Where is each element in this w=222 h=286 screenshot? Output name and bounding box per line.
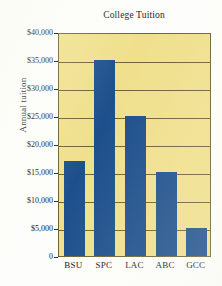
y-axis-tick: [54, 173, 58, 174]
gridline: [59, 62, 210, 63]
bar-chart: College Tuition Annual tuition $40,000$3…: [0, 0, 222, 286]
y-axis-tick-label: 0: [3, 252, 53, 261]
y-axis-tick-label: $5,000: [3, 224, 53, 233]
y-axis-tick: [54, 61, 58, 62]
y-axis-tick-label: $35,000: [3, 56, 53, 65]
bar: [64, 161, 85, 256]
chart-title: College Tuition: [56, 10, 212, 20]
y-axis-tick-labels: $40,000$35,000$30,000$25,000$20,000$15,0…: [0, 0, 53, 286]
y-axis-tick: [54, 257, 58, 258]
x-axis-tick-label: ABC: [150, 260, 181, 270]
x-axis-tick-label: BSU: [58, 260, 89, 270]
y-axis-tick: [54, 89, 58, 90]
y-axis-tick: [54, 201, 58, 202]
y-axis-tick: [54, 33, 58, 34]
x-axis-tick-labels: BSUSPCLACABCGCC: [58, 260, 211, 280]
y-axis-tick: [54, 117, 58, 118]
y-axis-tick: [54, 145, 58, 146]
bar: [186, 228, 207, 256]
y-axis-tick-label: $15,000: [3, 168, 53, 177]
y-axis-tick-label: $10,000: [3, 196, 53, 205]
y-axis-tick-label: $25,000: [3, 112, 53, 121]
x-axis-tick-label: SPC: [89, 260, 120, 270]
bar: [94, 60, 115, 256]
bar: [156, 172, 177, 256]
plot-area: [58, 33, 211, 257]
y-axis-tick: [54, 229, 58, 230]
y-axis-tick-label: $40,000: [3, 28, 53, 37]
bar: [125, 116, 146, 256]
y-axis-tick-label: $30,000: [3, 84, 53, 93]
x-axis-tick-label: LAC: [119, 260, 150, 270]
y-axis-tick-label: $20,000: [3, 140, 53, 149]
x-axis-tick-label: GCC: [180, 260, 211, 270]
gridline: [59, 90, 210, 91]
